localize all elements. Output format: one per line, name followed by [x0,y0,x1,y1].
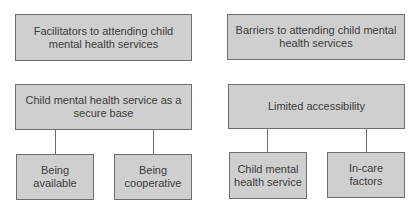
connector-secure-base-to-being-available [55,130,56,154]
secure-base-theme-box: Child mental health service as a secure … [15,84,192,130]
child-mental-health-service-label: Child mental health service [234,163,302,189]
connector-secure-base-to-being-cooperative [153,130,154,154]
connector-accessibility-to-child-mental-health-service [267,129,268,152]
thematic-diagram: Facilitators to attending child mental h… [0,0,416,209]
barriers-header-label: Barriers to attending child mental healt… [234,24,398,50]
being-cooperative-box: Being cooperative [114,154,192,200]
being-cooperative-label: Being cooperative [125,164,182,190]
in-care-factors-box: In-care factors [327,152,405,198]
limited-accessibility-theme-label: Limited accessibility [268,100,365,113]
child-mental-health-service-box: Child mental health service [229,152,307,199]
barriers-header-box: Barriers to attending child mental healt… [227,14,405,60]
being-available-box: Being available [16,154,94,200]
being-available-label: Being available [31,164,79,190]
limited-accessibility-theme-box: Limited accessibility [228,84,405,129]
in-care-factors-label: In-care factors [346,162,386,188]
secure-base-theme-label: Child mental health service as a secure … [22,94,185,120]
facilitators-header-box: Facilitators to attending child mental h… [15,14,192,61]
facilitators-header-label: Facilitators to attending child mental h… [22,25,185,51]
connector-accessibility-to-in-care-factors [366,129,367,152]
